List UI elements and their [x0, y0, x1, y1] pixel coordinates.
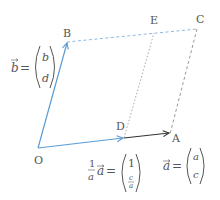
label-B: B — [63, 27, 71, 40]
b-top-entry: b — [42, 51, 49, 64]
coef-numerator: 1 — [89, 158, 95, 169]
vector-OD — [38, 138, 123, 148]
segment-BC — [67, 29, 197, 42]
left-paren — [122, 154, 126, 192]
coef-denominator: a — [88, 171, 94, 182]
bottom-denominator: a — [129, 182, 133, 190]
right-paren — [200, 148, 204, 184]
right-paren — [136, 154, 140, 192]
segment-DE — [124, 33, 154, 138]
label-D: D — [116, 120, 125, 133]
bottom-numerator: c — [129, 174, 133, 182]
b-vector-symbol: b — [11, 61, 19, 75]
label-O: O — [34, 154, 43, 167]
label-A: A — [171, 132, 181, 145]
equals-sign: = — [172, 159, 182, 173]
left-paren — [36, 46, 41, 88]
a-bottom-entry: c — [193, 169, 199, 180]
a-top-entry: a — [193, 151, 199, 162]
equals-sign: = — [106, 164, 116, 178]
scaled-vector-annotation: 1 a a = 1 c a — [88, 154, 140, 192]
b-bottom-entry: d — [42, 72, 49, 85]
left-paren — [187, 148, 191, 184]
equals-sign: = — [20, 61, 30, 75]
parallelogram-diagram: O B E C D A b = b d a = a c 1 a a = 1 c … — [0, 0, 220, 200]
label-C: C — [196, 13, 204, 26]
segment-CA — [170, 29, 197, 134]
a-vector-annotation: a = a c — [163, 148, 204, 184]
right-paren — [50, 46, 55, 88]
b-vector-annotation: b = b d — [11, 46, 55, 88]
top-entry: 1 — [128, 157, 135, 170]
vector-DA — [124, 133, 169, 138]
label-E: E — [150, 14, 158, 27]
